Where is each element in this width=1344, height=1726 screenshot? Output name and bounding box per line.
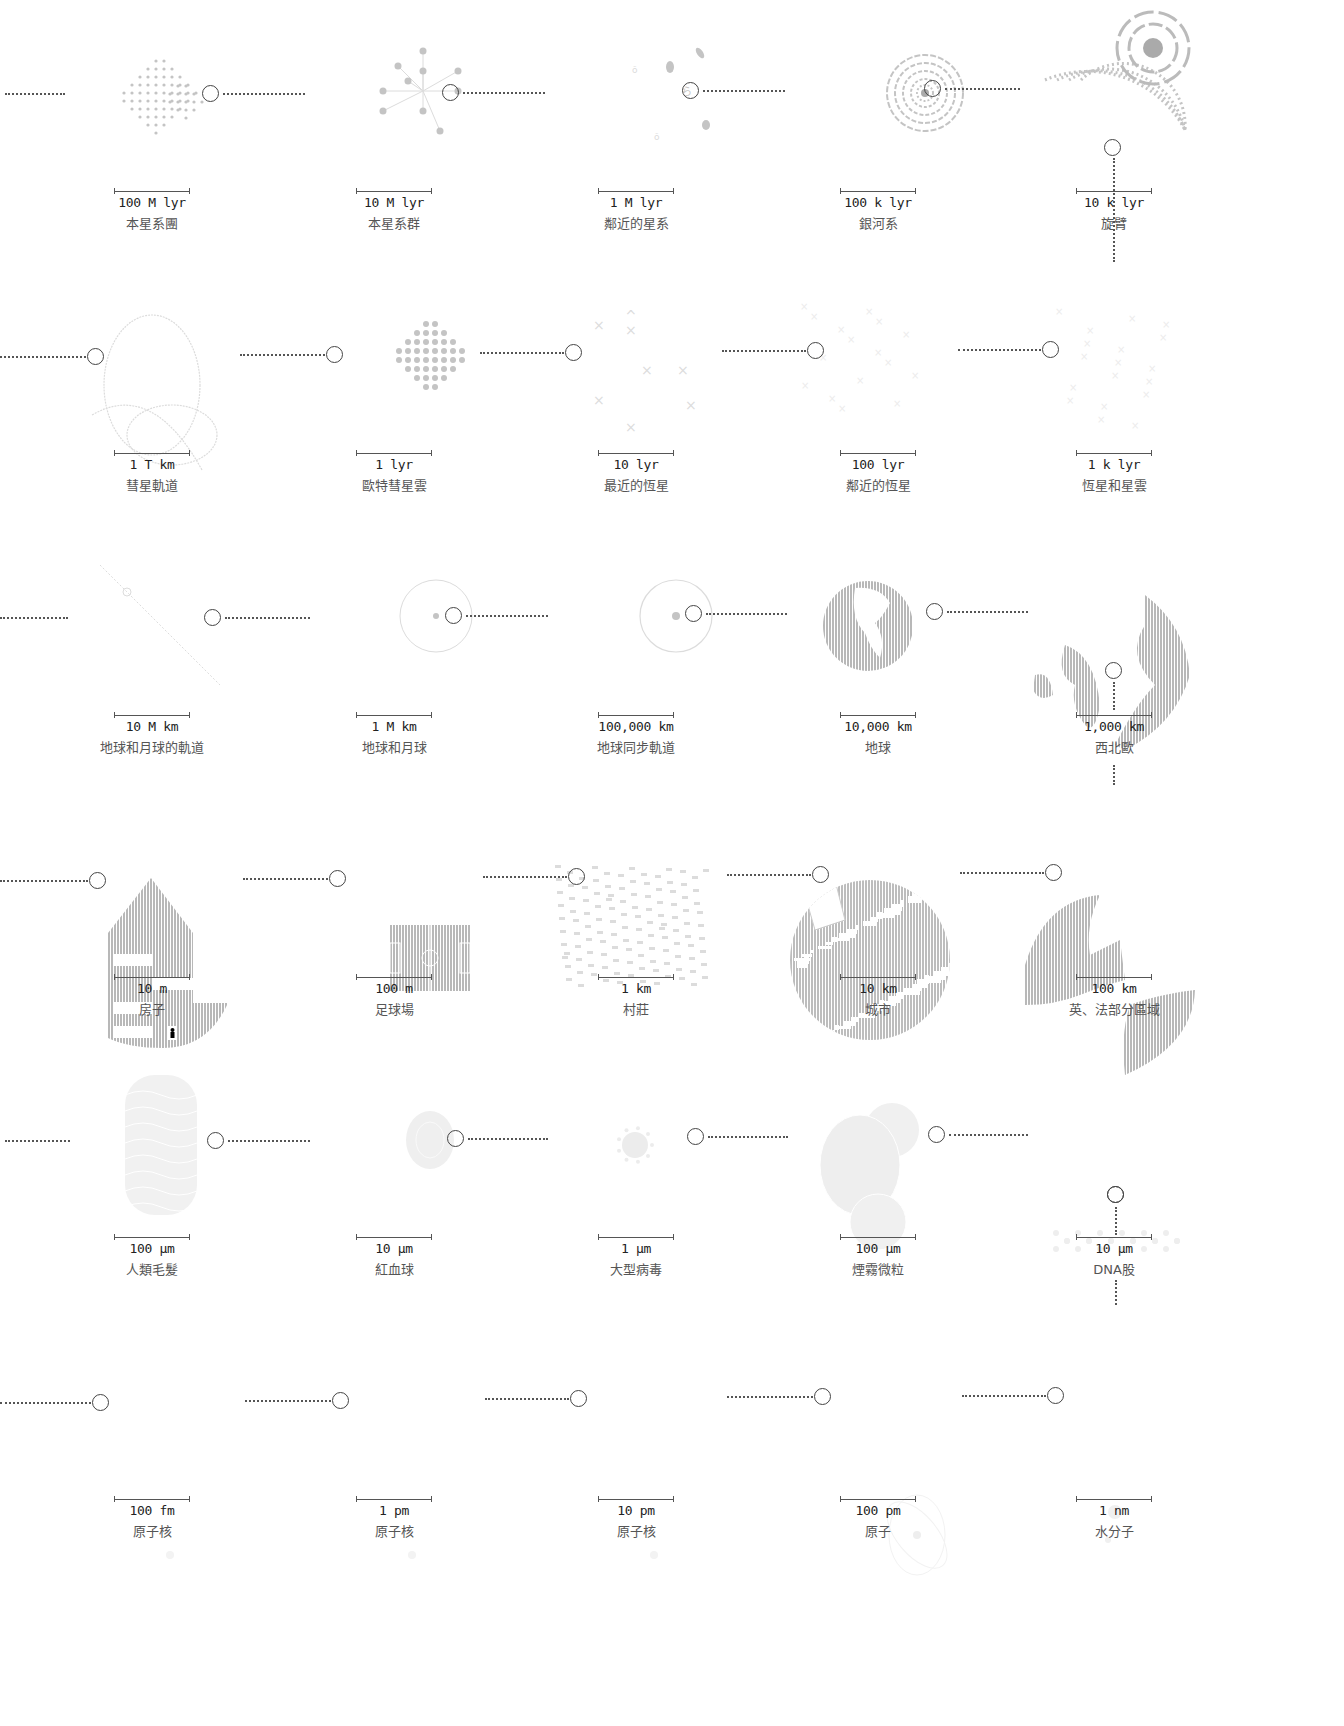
scale-value: 10 pm xyxy=(576,1503,696,1518)
scale-value: 100 k lyr xyxy=(818,195,938,210)
scale-value: 100 μm xyxy=(818,1241,938,1256)
dotted-connector xyxy=(5,93,65,95)
scale-item: 10 pm原子核 xyxy=(576,1496,696,1540)
dotted-connector xyxy=(485,1398,569,1400)
scale-label: 足球場 xyxy=(334,999,454,1018)
scale-bar xyxy=(1076,450,1152,456)
house-icon xyxy=(108,878,228,1048)
dotted-connector xyxy=(483,876,567,878)
svg-text:×: × xyxy=(911,370,919,381)
scale-node xyxy=(682,82,699,99)
scale-item: 100 μm煙霧微粒 xyxy=(818,1234,938,1278)
scale-item: 100 pm原子 xyxy=(818,1496,938,1540)
scale-node xyxy=(807,342,824,359)
scale-node xyxy=(1042,341,1059,358)
svg-text:×: × xyxy=(1131,420,1139,431)
svg-text:×: × xyxy=(1100,401,1108,412)
scale-node xyxy=(924,80,941,97)
dotted-connector xyxy=(480,352,564,354)
scale-bar xyxy=(356,974,432,980)
svg-text:×: × xyxy=(1114,357,1122,368)
dotted-connector xyxy=(703,90,785,92)
scale-node xyxy=(1107,1186,1124,1203)
svg-text:×: × xyxy=(685,397,697,413)
scale-label: 村莊 xyxy=(576,999,696,1018)
scale-label: 煙霧微粒 xyxy=(818,1259,938,1278)
dotted-connector xyxy=(225,617,310,619)
supercluster-icon xyxy=(120,45,210,145)
scale-item: 10 M km地球和月球的軌道 xyxy=(92,712,212,756)
dotted-connector-vertical xyxy=(1115,1280,1117,1305)
svg-text:×: × xyxy=(1083,338,1091,349)
svg-text:×: × xyxy=(865,306,873,317)
geosync-orbit-icon xyxy=(636,576,716,656)
scale-bar xyxy=(598,188,674,194)
scale-node xyxy=(204,609,221,626)
scale-item: 100 lyr鄰近的恆星 xyxy=(818,450,938,494)
svg-text:×: × xyxy=(893,398,901,409)
scale-value: 100 pm xyxy=(818,1503,938,1518)
scale-bar xyxy=(114,1496,190,1502)
scale-label: 原子核 xyxy=(576,1521,696,1540)
svg-text:×: × xyxy=(625,322,637,338)
scale-value: 1 k lyr xyxy=(1054,457,1174,472)
scale-value: 100 μm xyxy=(92,1241,212,1256)
svg-text:×: × xyxy=(1145,376,1153,387)
scale-bar xyxy=(598,1234,674,1240)
scale-label: 鄰近的恆星 xyxy=(818,475,938,494)
scale-item: 1 nm水分子 xyxy=(1054,1496,1174,1540)
nearby-galaxies-icon: らŏŏ xyxy=(630,45,720,145)
scale-item: 100 m足球場 xyxy=(334,974,454,1018)
scale-bar xyxy=(598,450,674,456)
scale-node xyxy=(447,1130,464,1147)
scale-bar xyxy=(356,188,432,194)
svg-text:×: × xyxy=(1080,351,1088,362)
scale-node xyxy=(1047,1387,1064,1404)
scale-value: 10,000 km xyxy=(818,719,938,734)
scale-node xyxy=(89,872,106,889)
scale-bar xyxy=(598,974,674,980)
scale-value: 1 μm xyxy=(576,1241,696,1256)
scale-item: 100 M lyr本星系團 xyxy=(92,188,212,232)
scale-node xyxy=(202,85,219,102)
scale-item: 1,000 km西北歐 xyxy=(1054,712,1174,756)
scale-node xyxy=(87,348,104,365)
svg-text:×: × xyxy=(874,347,882,358)
svg-text:×: × xyxy=(1055,306,1063,317)
dotted-connector xyxy=(0,880,88,882)
scale-node xyxy=(445,607,462,624)
scale-bar xyxy=(356,1234,432,1240)
dotted-connector-vertical xyxy=(1113,765,1115,785)
dotted-connector xyxy=(0,1402,91,1404)
dotted-connector xyxy=(727,1396,813,1398)
city-map-icon xyxy=(790,870,950,1050)
scale-value: 10 M lyr xyxy=(334,195,454,210)
svg-text:×: × xyxy=(1159,332,1167,343)
svg-text:×: × xyxy=(1097,414,1105,425)
scale-item: 10 m房子 xyxy=(92,974,212,1018)
dotted-connector-vertical xyxy=(1113,682,1115,710)
scale-node xyxy=(92,1394,109,1411)
scale-label: 地球和月球 xyxy=(334,737,454,756)
scale-bar xyxy=(356,450,432,456)
dotted-connector xyxy=(0,617,68,619)
scale-value: 10 M km xyxy=(92,719,212,734)
scale-label: 歐特彗星雲 xyxy=(334,475,454,494)
scale-item: 1 T km彗星軌道 xyxy=(92,450,212,494)
svg-text:×: × xyxy=(884,357,892,368)
scale-item: 100 km英、法部分區域 xyxy=(1054,974,1174,1018)
dotted-connector-vertical xyxy=(1113,158,1115,262)
dotted-connector xyxy=(5,1140,70,1142)
dotted-connector xyxy=(945,88,1020,90)
scale-node xyxy=(329,870,346,887)
scale-item: 10 lyr最近的恆星 xyxy=(576,450,696,494)
scale-bar xyxy=(114,1234,190,1240)
scale-value: 10 μm xyxy=(334,1241,454,1256)
scale-bar xyxy=(840,1496,916,1502)
svg-text:×: × xyxy=(875,316,883,327)
scale-bar xyxy=(840,1234,916,1240)
scale-bar xyxy=(1076,1234,1152,1240)
scale-label: 恆星和星雲 xyxy=(1054,475,1174,494)
svg-text:×: × xyxy=(837,324,845,335)
scale-item: 1 M km地球和月球 xyxy=(334,712,454,756)
